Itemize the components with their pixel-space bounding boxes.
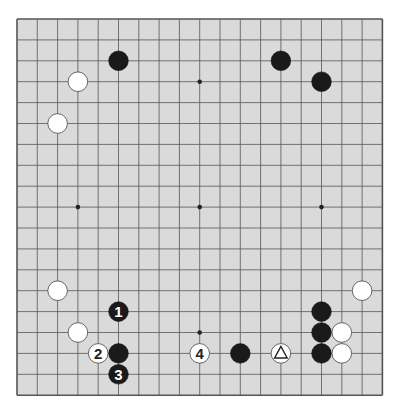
white-stone (68, 323, 88, 343)
black-stone (109, 344, 129, 364)
white-stone (48, 281, 68, 301)
black-stone (312, 323, 332, 343)
white-stone (352, 281, 372, 301)
black-stone (231, 344, 251, 364)
move-number-label: 1 (114, 303, 122, 320)
black-stone (312, 72, 332, 92)
go-board[interactable]: 1234 (0, 0, 399, 412)
black-stone (312, 302, 332, 322)
move-number-label: 4 (196, 345, 205, 362)
white-stone (48, 114, 68, 134)
hoshi-point (319, 205, 324, 210)
white-stone (68, 72, 88, 92)
hoshi-point (197, 79, 202, 84)
hoshi-point (197, 330, 202, 335)
move-number-label: 2 (94, 345, 102, 362)
black-stone (312, 344, 332, 364)
move-number-label: 3 (114, 366, 122, 383)
black-stone (109, 51, 129, 71)
go-board-diagram: 1234 (0, 0, 399, 412)
hoshi-point (76, 205, 81, 210)
white-stone (332, 323, 352, 343)
black-stone (271, 51, 291, 71)
white-stone (332, 344, 352, 364)
hoshi-point (197, 205, 202, 210)
